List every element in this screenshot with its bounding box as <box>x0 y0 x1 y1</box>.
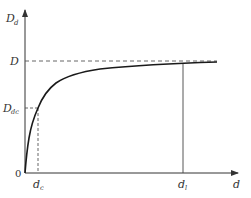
x-axis-label: d <box>233 178 240 191</box>
svg-text:d: d <box>33 178 40 191</box>
asymptote-label-D: D <box>9 55 19 68</box>
ddc-label: D dc <box>2 102 19 116</box>
svg-text:d: d <box>14 19 19 27</box>
svg-text:dc: dc <box>11 108 19 116</box>
origin-label: 0 <box>15 168 21 179</box>
dc-label: d c <box>33 178 44 192</box>
y-axis-label: D d <box>5 12 19 27</box>
svg-text:d: d <box>178 178 185 191</box>
diagram-canvas: D d D D dc 0 d c d l d <box>0 0 251 198</box>
svg-text:l: l <box>185 184 187 192</box>
saturation-curve <box>25 62 217 173</box>
svg-text:c: c <box>40 184 44 192</box>
dl-label: d l <box>178 178 187 192</box>
